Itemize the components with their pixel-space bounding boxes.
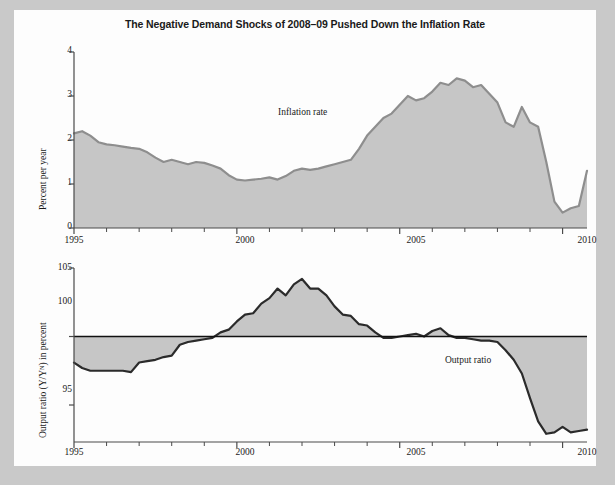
inflation-rate-plot [14,32,596,247]
figure-title: The Negative Demand Shocks of 2008–09 Pu… [14,18,596,30]
output-ratio-plot [14,248,596,466]
figure-page: The Negative Demand Shocks of 2008–09 Pu… [14,10,596,466]
output-ratio-chart: Output ratio (Y/Yᴺ) in percent 105 100 9… [14,248,596,466]
inflation-rate-chart: Percent per year 4 3 2 1 0 1995 2000 200… [14,32,596,247]
